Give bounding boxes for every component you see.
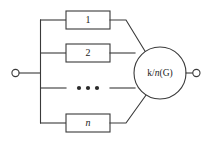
gate-label-suffix: (G) — [159, 68, 172, 79]
gate-k-of-n-label: k/n(G) — [147, 68, 172, 79]
terminal-output-circle[interactable] — [193, 69, 200, 76]
block-n-label: n — [86, 117, 91, 128]
wire-block-1-to-gate — [110, 20, 148, 56]
ellipsis-dot-3 — [95, 86, 99, 90]
block-1-label: 1 — [86, 14, 91, 25]
reliability-block-diagram: 1 2 n k/n(G) — [0, 0, 211, 145]
diagram-canvas: 1 2 n k/n(G) — [0, 0, 211, 145]
ellipsis-dot-1 — [77, 86, 81, 90]
ellipsis-dot-2 — [86, 86, 90, 90]
block-2-label: 2 — [86, 47, 91, 58]
terminal-input-circle[interactable] — [12, 69, 19, 76]
wire-block-n-to-gate — [110, 91, 149, 123]
